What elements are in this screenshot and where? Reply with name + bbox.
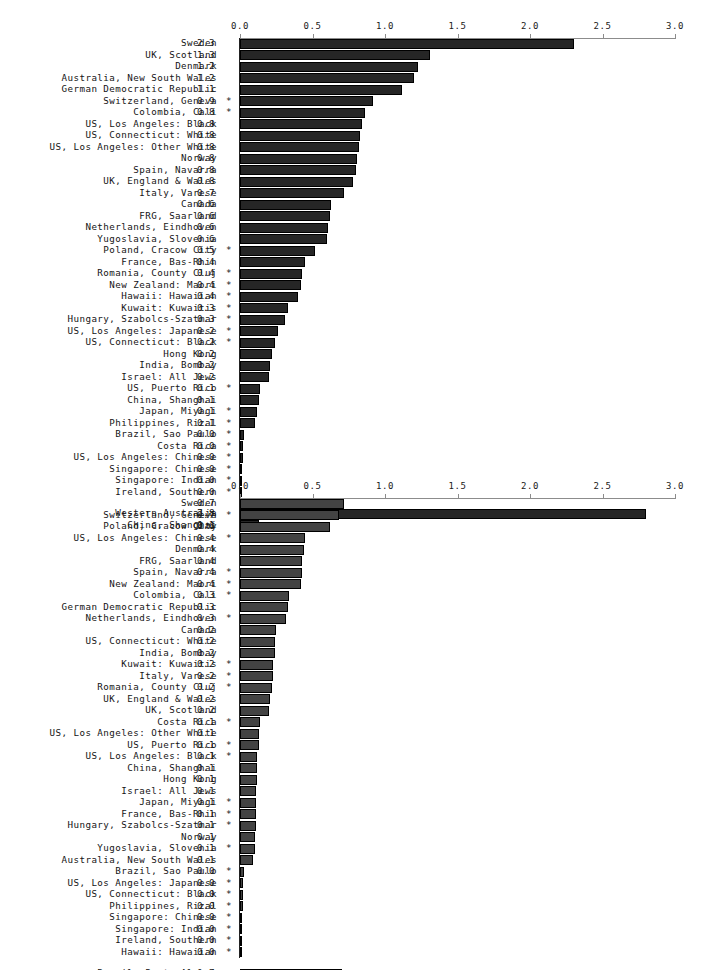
bar-row: Hungary, Szabolcs-Szatmar0.1* xyxy=(0,820,720,832)
bar-row-value: 0.2 xyxy=(197,635,215,646)
bar-2-main-26 xyxy=(240,798,256,808)
bar-2-main-9 xyxy=(240,602,288,612)
bar-row-asterisk: * xyxy=(226,589,232,600)
bar-row-value: 0.2 xyxy=(197,704,215,715)
bar-row-value: 0.2 xyxy=(197,681,215,692)
bar-row-asterisk: * xyxy=(226,739,232,750)
bar-2-main-23 xyxy=(240,763,257,773)
bar-row-asterisk: * xyxy=(226,842,232,853)
bar-row-value: 0.1 xyxy=(197,854,215,865)
axis-tick-label-1-0: 0.0 xyxy=(231,21,249,31)
bar-row-value: 0.0 xyxy=(197,911,215,922)
bar-row-value: 0.2 xyxy=(197,647,215,658)
bar-1-main-28 xyxy=(240,361,270,371)
bar-row-value: 1.3 xyxy=(197,49,215,60)
bar-row-asterisk: * xyxy=(226,267,232,278)
chart-2-rows: Sweden0.7Switzerland, Geneva0.7*Poland, … xyxy=(0,498,720,958)
chart-1-rows: Sweden2.3UK, Scotland1.3Denmark1.2Austra… xyxy=(0,38,720,498)
bar-row-value: 0.8 xyxy=(197,164,215,175)
bar-row: Kuwait: Kuwaitis0.2* xyxy=(0,659,720,671)
bar-row-value: 0.1 xyxy=(197,727,215,738)
bar-row: Denmark0.4 xyxy=(0,544,720,556)
bar-row-value: 0.4 xyxy=(197,256,215,267)
bar-row: US, Connecticut: Black0.2* xyxy=(0,337,720,349)
bar-1-main-30 xyxy=(240,384,260,394)
bar-row-value: 0.0 xyxy=(197,946,215,957)
bar-1-main-36 xyxy=(240,453,243,463)
bar-row: New Zealand: Maori0.4* xyxy=(0,280,720,292)
bar-2-main-10 xyxy=(240,614,286,624)
bar-1-main-33 xyxy=(240,418,255,428)
bar-row-asterisk: * xyxy=(226,865,232,876)
bar-1-main-23 xyxy=(240,303,288,313)
bar-row-value: 0.4 xyxy=(197,532,215,543)
bar-row-value: 2.3 xyxy=(197,37,215,48)
bar-2-main-14 xyxy=(240,660,273,670)
bar-row-asterisk: * xyxy=(226,302,232,313)
bar-row-value: 0.6 xyxy=(197,210,215,221)
axis-tick-label-2-2: 1.0 xyxy=(376,481,394,491)
bar-row-value: 0.6 xyxy=(197,221,215,232)
bar-2-main-36 xyxy=(240,913,242,923)
bar-1-main-0 xyxy=(240,39,574,49)
bar-row-value: 0.1 xyxy=(197,785,215,796)
bar-row-value: 0.4 xyxy=(197,578,215,589)
bar-row-value: 0.4 xyxy=(197,566,215,577)
bar-row-value: 0.0 xyxy=(197,451,215,462)
bar-row-asterisk: * xyxy=(226,244,232,255)
bar-row-asterisk: * xyxy=(226,463,232,474)
bar-2-main-22 xyxy=(240,752,257,762)
bar-1-main-35 xyxy=(240,441,243,451)
bar-1-main-16 xyxy=(240,223,328,233)
bar-row-value: 0.3 xyxy=(197,612,215,623)
bar-1-main-6 xyxy=(240,108,365,118)
bar-2-main-25 xyxy=(240,786,256,796)
bar-row-asterisk: * xyxy=(226,888,232,899)
bar-row-asterisk: * xyxy=(226,532,232,543)
bar-2-main-24 xyxy=(240,775,257,785)
bar-1-main-37 xyxy=(240,464,242,474)
bar-row-value: 0.0 xyxy=(197,877,215,888)
bar-2-main-2 xyxy=(240,522,330,532)
bar-1-main-26 xyxy=(240,338,275,348)
bar-row-asterisk: * xyxy=(226,750,232,761)
bar-row: US, Los Angeles: Chinese0.0* xyxy=(0,452,720,464)
bar-row: Poland, Cracow City0.5* xyxy=(0,245,720,257)
bar-row-value: 0.4 xyxy=(197,290,215,301)
bar-row-value: 0.0 xyxy=(197,900,215,911)
bar-row-asterisk: * xyxy=(226,290,232,301)
bar-row-value: 0.7 xyxy=(197,187,215,198)
bar-row: UK, England & Wales0.8 xyxy=(0,176,720,188)
bar-row-value: 1.2 xyxy=(197,72,215,83)
bar-row: Brazil, Sao Paulo0.0* xyxy=(0,429,720,441)
axis-tick-label-1-6: 3.0 xyxy=(666,21,684,31)
bar-2-main-20 xyxy=(240,729,259,739)
axis-tick-label-2-0: 0.0 xyxy=(231,481,249,491)
bar-1-main-15 xyxy=(240,211,330,221)
bar-row-value: 0.3 xyxy=(197,601,215,612)
bar-1-main-17 xyxy=(240,234,327,244)
bar-2-main-19 xyxy=(240,717,260,727)
bar-row: US, Los Angeles: Other White0.1 xyxy=(0,728,720,740)
bar-1-main-12 xyxy=(240,177,353,187)
bar-1-main-19 xyxy=(240,257,305,267)
bar-2-main-16 xyxy=(240,683,272,693)
bar-row-asterisk: * xyxy=(226,106,232,117)
bar-row-label: Hungary, Szabolcs-Szatmar xyxy=(67,313,217,324)
bar-row-value: 0.0 xyxy=(197,888,215,899)
bar-row-value: 0.9 xyxy=(197,95,215,106)
bar-row: US, Los Angeles: Chinese0.4* xyxy=(0,533,720,545)
bar-row-asterisk: * xyxy=(226,428,232,439)
bar-2-main-12 xyxy=(240,637,275,647)
bar-row-label: German Democratic Republic xyxy=(61,83,217,94)
bar-1-main-9 xyxy=(240,142,359,152)
bar-row: Canada0.6 xyxy=(0,199,720,211)
bar-row-asterisk: * xyxy=(226,336,232,347)
bar-row-asterisk: * xyxy=(226,946,232,957)
bar-row-asterisk: * xyxy=(226,382,232,393)
bar-row-asterisk: * xyxy=(226,313,232,324)
bar-row-value: 0.2 xyxy=(197,658,215,669)
bar-row-asterisk: * xyxy=(226,934,232,945)
bar-2-main-28 xyxy=(240,821,256,831)
bar-row: China, Shanghai0.1 xyxy=(0,763,720,775)
